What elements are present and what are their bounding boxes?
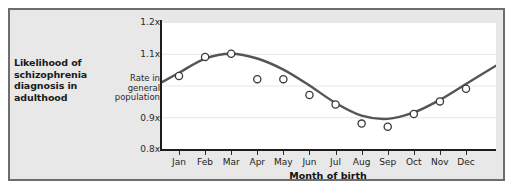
x-tick-label-dec: Dec [449,157,483,167]
chart-svg [162,22,496,149]
data-point-markers [175,50,469,130]
data-point-jan [175,72,182,79]
x-tick-mark-oct [414,151,415,155]
data-point-sep [384,123,391,130]
x-tick-mark-feb [205,151,206,155]
data-point-jul [332,101,339,108]
x-tick-mark-jan [179,151,180,155]
plot-area [162,22,496,149]
x-tick-mark-may [283,151,284,155]
data-point-nov [436,98,443,105]
data-point-mar [228,50,235,57]
baseline-annotation: Rate ingeneralpopulation [112,74,160,103]
x-tick-mark-aug [362,151,363,155]
x-tick-mark-jul [336,151,337,155]
x-axis-spine [160,149,496,151]
y-tick-label-0.8x: 0.8x [118,144,160,154]
x-tick-mark-jun [309,151,310,155]
x-tick-mark-mar [231,151,232,155]
x-tick-mark-apr [257,151,258,155]
data-point-dec [462,85,469,92]
y-tick-label-1.1x: 1.1x [118,49,160,59]
y-axis: 1.2x 1.1x Rate ingeneralpopulation 0.9x … [118,0,160,196]
data-point-feb [201,53,208,60]
chart-figure: Likelihood of schizophrenia diagnosis in… [0,0,520,196]
x-tick-mark-nov [440,151,441,155]
x-tick-mark-sep [388,151,389,155]
x-axis-title: Month of birth [160,170,496,181]
data-point-oct [410,110,417,117]
data-point-may [280,76,287,83]
data-point-apr [254,76,261,83]
gridlines [162,23,496,150]
y-axis-spine [160,20,162,151]
y-tick-label-1.2x: 1.2x [118,17,160,27]
x-tick-mark-dec [466,151,467,155]
data-point-jun [306,91,313,98]
y-tick-label-0.9x: 0.9x [118,113,160,123]
data-point-aug [358,120,365,127]
chart-caption: Likelihood of schizophrenia diagnosis in… [14,57,118,103]
